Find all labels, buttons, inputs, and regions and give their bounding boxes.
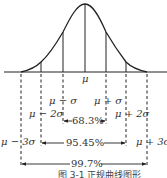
bell-curve — [21, 4, 147, 72]
label-mu-plus-3sigma: μ + 3σ — [136, 136, 167, 147]
pct-99: 99.7% — [71, 158, 103, 169]
pct-95: 95.45% — [66, 137, 104, 148]
figure-caption: 图 3-1 正规曲线图形 — [58, 169, 141, 178]
label-mu-minus-sigma: μ − σ — [49, 95, 78, 106]
pct-68: 68.3% — [72, 115, 104, 126]
label-mu-plus-2sigma: μ + 2σ — [115, 108, 151, 119]
mu-label: μ — [82, 73, 89, 84]
label-mu-minus-3sigma: μ − 3σ — [1, 136, 37, 147]
label-mu-plus-sigma: μ + σ — [94, 95, 123, 106]
normal-curve-diagram: μ μ − σ μ + σ μ − 2σ μ + 2σ μ − 3σ μ + 3… — [0, 0, 167, 178]
label-mu-minus-2sigma: μ − 2σ — [29, 108, 65, 119]
